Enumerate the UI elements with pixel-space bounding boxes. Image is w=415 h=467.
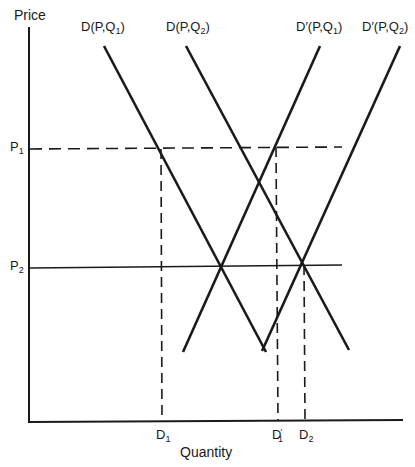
- label-d-p-q2: D(P,Q2): [166, 20, 210, 35]
- diagram-canvas: [0, 0, 415, 467]
- d1-prime-drop-line: [276, 147, 278, 421]
- label-p2: P2: [10, 259, 24, 274]
- curve-d-prime-p-q1: [183, 46, 320, 352]
- label-d-prime-p-q2: D′(P,Q2): [362, 20, 408, 35]
- label-d1-prime: D′1: [272, 428, 288, 443]
- x-axis-label: Quantity: [180, 445, 232, 459]
- d2-drop-line: [304, 265, 305, 421]
- p1-line: [30, 147, 342, 149]
- label-p1: P1: [10, 140, 24, 155]
- label-d2: D2: [299, 428, 313, 443]
- d1-drop-line: [161, 149, 162, 421]
- label-d1: D1: [156, 428, 170, 443]
- curve-d-p-q1: [104, 46, 266, 352]
- p2-line: [30, 265, 342, 268]
- curve-d-prime-p-q2: [262, 46, 400, 351]
- label-d-p-q1: D(P,Q1): [81, 20, 125, 35]
- x-axis: [29, 420, 403, 422]
- curve-d-p-q2: [186, 46, 349, 350]
- y-axis-label: Price: [14, 8, 46, 22]
- label-d-prime-p-q1: D′(P,Q1): [296, 20, 342, 35]
